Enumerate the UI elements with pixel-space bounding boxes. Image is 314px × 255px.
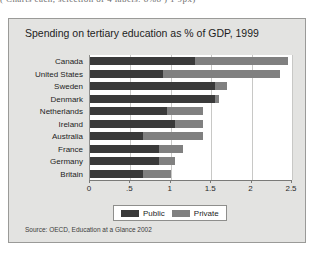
bar-segment-public [90, 70, 163, 78]
bar-row [90, 118, 292, 131]
legend-item: Public [121, 209, 165, 218]
category-label: Sweden [54, 82, 83, 91]
category-label: Canada [55, 57, 83, 66]
bar-segment-private [215, 82, 227, 90]
bar-row [90, 155, 292, 168]
bar-row [90, 80, 292, 93]
category-label: Germany [50, 157, 83, 166]
bar-row [90, 93, 292, 106]
bar-segment-private [159, 157, 175, 165]
bar-segment-public [90, 82, 215, 90]
plot-area [89, 55, 292, 180]
source-note: Source: OECD, Education at a Glance 2002 [25, 226, 152, 233]
bar-segment-private [175, 120, 203, 128]
tick-mark [210, 180, 211, 183]
tick-mark [291, 180, 292, 183]
bar-segment-private [215, 95, 219, 103]
x-tick-label: 1.5 [205, 184, 216, 193]
category-label: United States [35, 70, 83, 79]
tick-mark [170, 180, 171, 183]
bar-segment-private [143, 170, 171, 178]
bar-row [90, 105, 292, 118]
chart-title: Spending on tertiary education as % of G… [25, 27, 259, 39]
legend-label: Public [143, 209, 165, 218]
bar-row [90, 168, 292, 181]
tick-mark [89, 180, 90, 183]
bar-segment-public [90, 95, 215, 103]
tick-mark [251, 180, 252, 183]
bar-segment-public [90, 157, 159, 165]
bar-row [90, 130, 292, 143]
bar-segment-public [90, 170, 143, 178]
bar-segment-public [90, 120, 175, 128]
x-tick-label: 2.5 [285, 184, 296, 193]
bar-row [90, 143, 292, 156]
bar-segment-private [159, 145, 183, 153]
bar-segment-private [163, 70, 280, 78]
x-tick-label: .5 [126, 184, 133, 193]
x-tick-label: 2 [248, 184, 252, 193]
category-label: Britain [60, 170, 83, 179]
category-label: Denmark [51, 95, 83, 104]
bar-segment-public [90, 107, 167, 115]
clipped-header-text: ( Charts each, selection of 4 labels: 8%… [0, 0, 314, 8]
legend-swatch [121, 210, 139, 217]
category-label: Netherlands [40, 107, 83, 116]
gridline [292, 55, 293, 180]
bar-segment-private [167, 107, 203, 115]
bar-segment-private [143, 132, 204, 140]
category-label: France [58, 145, 83, 154]
bar-segment-public [90, 132, 143, 140]
x-axis-line [89, 180, 292, 181]
legend-swatch [172, 210, 190, 217]
chart-legend: PublicPrivate [113, 205, 227, 221]
chart-panel: Spending on tertiary education as % of G… [8, 18, 306, 243]
category-label: Australia [52, 132, 83, 141]
legend-label: Private [194, 209, 219, 218]
bar-segment-private [195, 57, 288, 65]
bar-segment-public [90, 57, 195, 65]
bar-segment-public [90, 145, 159, 153]
x-tick-label: 0 [87, 184, 91, 193]
x-tick-label: 1 [168, 184, 172, 193]
bar-row [90, 68, 292, 81]
legend-item: Private [172, 209, 219, 218]
bar-row [90, 55, 292, 68]
tick-mark [129, 180, 130, 183]
category-label: Ireland [59, 120, 83, 129]
